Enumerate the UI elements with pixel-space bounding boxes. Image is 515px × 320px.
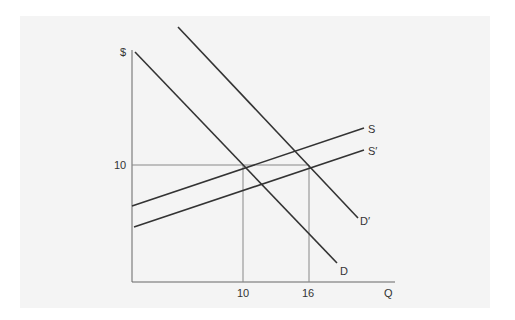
x-tick-10: 10 bbox=[237, 287, 249, 299]
curve-label-d-prime: D′ bbox=[360, 215, 370, 227]
demand-curve-d bbox=[135, 52, 337, 263]
curve-label-d: D bbox=[340, 265, 348, 277]
y-tick-10: 10 bbox=[114, 159, 126, 171]
curve-label-s: S bbox=[368, 123, 375, 135]
demand-curve-d-prime bbox=[178, 27, 358, 218]
x-tick-16: 16 bbox=[302, 287, 314, 299]
curve-label-s-prime: S′ bbox=[368, 145, 377, 157]
supply-demand-diagram: $ Q 10 10 16 D D′ S S′ bbox=[0, 0, 515, 320]
x-axis-label: Q bbox=[384, 287, 393, 299]
y-axis-label: $ bbox=[120, 46, 126, 58]
supply-curve-s bbox=[132, 128, 364, 206]
